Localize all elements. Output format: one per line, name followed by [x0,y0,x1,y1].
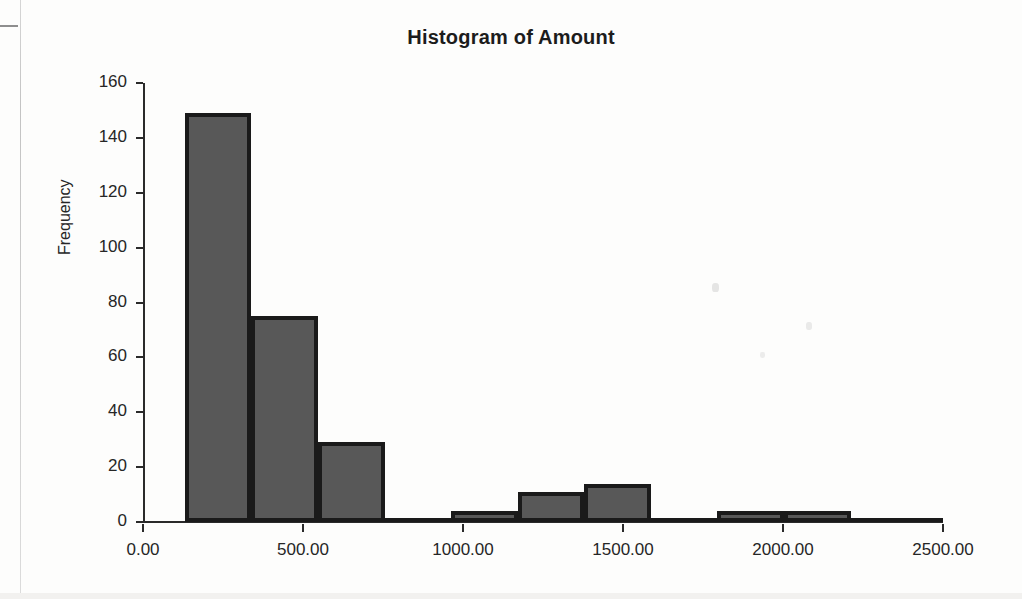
y-axis-tick: 40 [136,411,143,413]
histogram-bar [584,484,651,522]
histogram-bar [851,518,943,522]
y-axis-tick: 100 [136,247,143,249]
histogram-bar [185,113,252,522]
x-axis-tick-label: 0.00 [126,540,159,560]
x-axis-tick [622,524,624,532]
y-axis-tick-label: 80 [108,292,127,312]
y-axis-tick-label: 0 [118,511,127,531]
y-axis-tick-label: 20 [108,456,127,476]
y-axis-tick-label: 100 [99,237,127,257]
x-axis-tick-label: 500.00 [277,540,329,560]
x-axis-tick-label: 2500.00 [912,540,973,560]
scan-artifact-vertical-line [20,0,21,599]
x-axis-tick-label: 1000.00 [432,540,493,560]
x-axis-tick-label: 2000.00 [752,540,813,560]
y-axis-tick: 20 [136,466,143,468]
y-axis-tick-label: 160 [99,72,127,92]
y-axis-tick: 160 [136,82,143,84]
y-axis-title: Frequency [56,179,74,255]
y-axis-tick: 120 [136,192,143,194]
x-axis-tick [942,524,944,532]
histogram-bar [451,511,518,522]
x-axis-tick [142,524,144,532]
y-axis-tick-label: 120 [99,182,127,202]
histogram-bar [318,442,385,522]
histogram-bar [251,316,318,522]
scanned-page: Histogram of Amount Frequency 0204060801… [0,0,1022,599]
histogram-bar [518,492,585,522]
y-axis-tick-label: 40 [108,401,127,421]
histogram-bar [651,518,718,522]
x-axis-tick [462,524,464,532]
y-axis-tick: 0 [136,521,143,523]
y-axis-tick: 60 [136,356,143,358]
y-axis-tick: 140 [136,137,143,139]
y-axis-tick-label: 60 [108,346,127,366]
histogram-bar [784,511,851,522]
x-axis-tick [302,524,304,532]
scan-artifact-bottom-edge [0,593,1022,599]
x-axis-tick [782,524,784,532]
histogram-bar [385,518,452,522]
chart-title: Histogram of Amount [0,26,1022,49]
y-axis-tick: 80 [136,302,143,304]
histogram-bar [717,511,784,522]
plot-area: 0204060801001201401600.00500.001000.0015… [143,83,943,522]
y-axis-tick-label: 140 [99,127,127,147]
x-axis-tick-label: 1500.00 [592,540,653,560]
